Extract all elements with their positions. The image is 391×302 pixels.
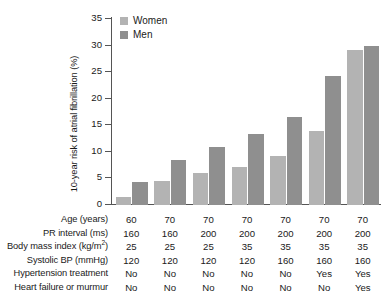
table-cell: 160 (346, 254, 380, 267)
risk-factor-table: Age (years)60707070707070PR interval (ms… (0, 212, 391, 302)
table-cell: 200 (191, 227, 225, 240)
table-cell: 25 (191, 240, 225, 253)
table-cell: 25 (114, 240, 148, 253)
table-cell: 70 (346, 213, 380, 226)
table-cell: 60 (114, 213, 148, 226)
table-cell: 120 (191, 254, 225, 267)
table-cell: 200 (269, 227, 303, 240)
table-row: PR interval (ms)160160200200200200200 (0, 227, 391, 240)
bar-group (116, 19, 148, 205)
table-cell: 120 (230, 254, 264, 267)
table-cell: 70 (307, 213, 341, 226)
table-cell: 120 (153, 254, 187, 267)
bar-women (347, 50, 363, 205)
y-tick-label: 25 (72, 65, 102, 76)
table-row: Body mass index (kg/m2)25252535353535 (0, 240, 391, 253)
table-cell: 160 (153, 227, 187, 240)
table-row-label: Hypertension treatment (0, 267, 108, 280)
table-cell: 200 (307, 227, 341, 240)
table-cell: 200 (230, 227, 264, 240)
y-tick-label: 20 (72, 92, 102, 103)
table-cell: No (153, 267, 187, 280)
y-tick-label: 0 (72, 198, 102, 209)
y-tick-label: 15 (72, 118, 102, 129)
table-cell: No (269, 281, 303, 294)
bar-women (309, 131, 325, 205)
bar-women (154, 181, 170, 205)
table-row-label: Body mass index (kg/m2) (0, 240, 108, 253)
bar-group (270, 19, 302, 205)
bar-men (287, 117, 303, 205)
table-cell: 70 (153, 213, 187, 226)
table-cell: No (114, 267, 148, 280)
table-row: Hypertension treatmentNoNoNoNoNoYesYes (0, 267, 391, 280)
table-cell: No (307, 281, 341, 294)
table-cell: 70 (269, 213, 303, 226)
bar-men (325, 76, 341, 205)
bar-group (232, 19, 264, 205)
bar-men (364, 46, 380, 205)
table-row: Age (years)60707070707070 (0, 213, 391, 226)
table-cell: 200 (346, 227, 380, 240)
y-tick-label: 10 (72, 145, 102, 156)
table-cell: 35 (230, 240, 264, 253)
table-cell: 160 (114, 227, 148, 240)
table-cell: 70 (191, 213, 225, 226)
table-cell: 25 (153, 240, 187, 253)
table-row-label: Systolic BP (mmHg) (0, 254, 108, 267)
table-cell: No (153, 281, 187, 294)
y-tick-label: 35 (72, 12, 102, 23)
y-tick-label: 5 (72, 171, 102, 182)
bar-men (171, 160, 187, 205)
table-cell: No (269, 267, 303, 280)
table-cell: No (191, 267, 225, 280)
plot-area: 10-year risk of atrial fibrillation (%) … (0, 0, 391, 212)
bar-men (132, 182, 148, 205)
bar-women (232, 167, 248, 205)
table-cell: 160 (269, 254, 303, 267)
bar-group (154, 19, 186, 205)
table-cell: 120 (114, 254, 148, 267)
bar-groups (111, 0, 381, 205)
bar-women (116, 197, 132, 205)
table-cell: Yes (307, 267, 341, 280)
table-cell: Yes (346, 281, 380, 294)
table-cell: 35 (307, 240, 341, 253)
table-row-label: Age (years) (0, 213, 108, 226)
table-row-label: PR interval (ms) (0, 227, 108, 240)
bar-men (248, 134, 264, 205)
table-cell: No (230, 267, 264, 280)
table-cell: 70 (230, 213, 264, 226)
table-cell: No (114, 281, 148, 294)
table-cell: 35 (269, 240, 303, 253)
bar-group (309, 19, 341, 205)
bar-women (193, 173, 209, 205)
table-cell: 160 (307, 254, 341, 267)
table-cell: No (191, 281, 225, 294)
y-tick-label: 30 (72, 39, 102, 50)
bar-group (193, 19, 225, 205)
table-cell: 35 (346, 240, 380, 253)
bar-women (270, 156, 286, 205)
bar-group (347, 19, 379, 205)
table-row-label: Heart failure or murmur (0, 281, 108, 294)
table-cell: No (230, 281, 264, 294)
bar-men (209, 147, 225, 205)
table-cell: Yes (346, 267, 380, 280)
chart-figure: 10-year risk of atrial fibrillation (%) … (0, 0, 391, 302)
table-row: Systolic BP (mmHg)120120120120160160160 (0, 254, 391, 267)
table-row: Heart failure or murmurNoNoNoNoNoNoYes (0, 281, 391, 294)
